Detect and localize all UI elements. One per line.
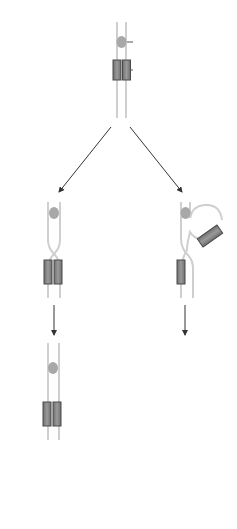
top-chromosome-pair	[113, 22, 133, 118]
centromere-icon	[181, 207, 191, 219]
centromere-icon	[117, 36, 127, 48]
arrow-left-branch	[59, 127, 111, 192]
left-result-pair	[43, 343, 61, 440]
gene-icon	[54, 260, 62, 284]
gene-icon	[44, 260, 52, 284]
centromere-icon	[48, 362, 58, 374]
gene-icon	[53, 402, 61, 426]
left-crossover-pair	[44, 202, 62, 298]
gene-icon	[197, 225, 222, 247]
recombination-diagram	[0, 0, 237, 529]
centromere-icon	[49, 207, 59, 219]
gene-icon	[113, 60, 121, 80]
gene-icon	[177, 260, 185, 284]
gene-icon	[43, 402, 51, 426]
gene-icon	[123, 60, 131, 80]
right-crossover-pair	[177, 202, 223, 298]
arrow-right-branch	[130, 127, 182, 192]
